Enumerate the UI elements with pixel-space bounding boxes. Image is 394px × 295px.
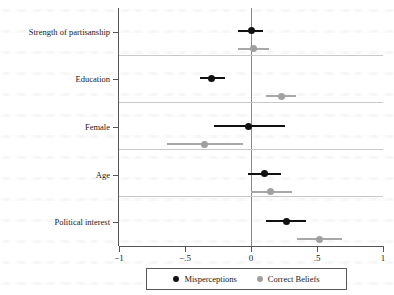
x-axis-tick-label: 1 (363, 253, 394, 264)
legend-entry-misperceptions: Misperceptions (173, 274, 236, 284)
legend-marker-icon (257, 276, 263, 282)
x-axis-tick (317, 247, 318, 252)
y-axis-category-label: Female (0, 122, 110, 132)
y-axis-category-label: Strength of partisanship (0, 27, 110, 37)
estimate-marker (283, 218, 290, 225)
legend-marker-icon (173, 276, 179, 282)
x-axis-tick (383, 247, 384, 252)
x-axis-tick-label: .5 (297, 253, 337, 264)
estimate-marker (316, 236, 323, 243)
y-axis-category-label: Education (0, 74, 110, 84)
y-axis-tick (113, 127, 118, 128)
y-axis-tick (113, 175, 118, 176)
y-axis-category-label: Political interest (0, 217, 110, 227)
estimate-marker (250, 45, 257, 52)
x-axis-tick (185, 247, 186, 252)
coefficient-plot-figure: Misperceptions Correct Beliefs −1−.50.51… (0, 0, 394, 295)
estimate-marker (278, 93, 285, 100)
y-axis-category-label: Age (0, 170, 110, 180)
x-axis-tick (119, 247, 120, 252)
gridline (119, 102, 383, 103)
y-axis-tick (113, 222, 118, 223)
x-axis-tick-label: −.5 (165, 253, 205, 264)
y-axis-tick (113, 79, 118, 80)
gridline (119, 149, 383, 150)
x-axis-tick (251, 247, 252, 252)
gridline (119, 196, 383, 197)
legend-entry-correct-beliefs: Correct Beliefs (257, 274, 320, 284)
legend-label: Correct Beliefs (268, 274, 320, 284)
estimate-marker (248, 27, 255, 34)
estimate-marker (245, 123, 252, 130)
y-axis-tick (113, 32, 118, 33)
estimate-marker (267, 188, 274, 195)
x-axis-tick-label: −1 (99, 253, 139, 264)
plot-area (119, 8, 383, 246)
estimate-marker (201, 141, 208, 148)
chart-legend: Misperceptions Correct Beliefs (146, 268, 347, 290)
gridline (119, 55, 383, 56)
estimate-marker (208, 75, 215, 82)
estimate-marker (261, 170, 268, 177)
x-axis-tick-label: 0 (231, 253, 271, 264)
legend-label: Misperceptions (184, 274, 236, 284)
